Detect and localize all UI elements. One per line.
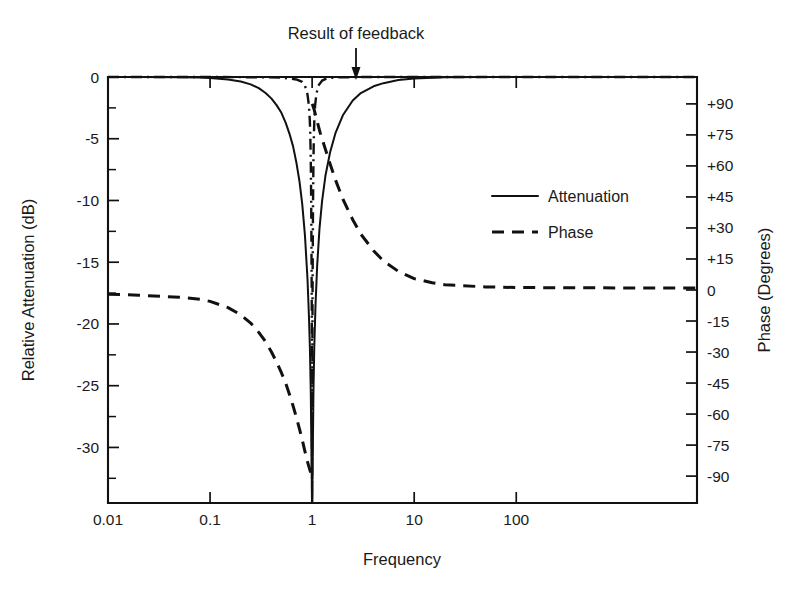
plot-frame [108,77,697,503]
left-tick-label: -25 [77,377,99,394]
bottom-tick-label: 100 [503,511,529,528]
right-tick-label: -60 [707,406,730,423]
bottom-tick-label: 1 [308,511,317,528]
right-tick-label: +30 [707,219,734,236]
bottom-tick-label: 10 [406,511,424,528]
left-tick-label: -10 [77,192,100,209]
left-tick-label: 0 [90,69,99,86]
y2-axis-title: Phase (Degrees) [755,228,773,353]
bottom-axis-tick-labels: 0.010.1110100 [93,511,530,528]
y-axis-title: Relative Attenuation (dB) [19,199,37,382]
right-tick-label: +15 [707,250,733,267]
curve-phase [108,294,312,476]
right-axis-ticks [686,104,697,476]
annotation-label: Result of feedback [288,24,425,42]
curve-result-of-feedback [108,77,697,503]
right-tick-label: +90 [707,95,734,112]
legend-label-attenuation: Attenuation [548,188,629,205]
notch-filter-figure: 0-5-10-15-20-25-30 +90+75+60+45+30+150-1… [0,0,801,589]
bottom-tick-label: 0.1 [199,511,221,528]
right-tick-label: +60 [707,157,734,174]
left-tick-label: -15 [77,254,99,271]
left-axis-tick-labels: 0-5-10-15-20-25-30 [77,69,100,456]
right-tick-label: -15 [707,313,729,330]
right-tick-label: 0 [707,282,716,299]
right-tick-label: -75 [707,437,729,454]
plot-svg: 0-5-10-15-20-25-30 +90+75+60+45+30+150-1… [0,0,801,589]
right-tick-label: -30 [707,344,730,361]
left-tick-label: -5 [85,130,99,147]
data-curves [108,77,697,503]
legend-label-phase: Phase [548,224,593,241]
right-axis-tick-labels: +90+75+60+45+30+150-15-30-45-60-75-90 [707,95,734,484]
left-tick-label: -20 [77,315,100,332]
bottom-tick-label: 0.01 [93,511,123,528]
curve-attenuation [108,77,697,503]
legend: Attenuation Phase [492,188,629,241]
feedback-annotation: Result of feedback [288,24,425,80]
x-axis-title: Frequency [363,550,442,568]
left-axis-ticks [108,77,119,478]
right-tick-label: +75 [707,126,733,143]
right-tick-label: -45 [707,375,729,392]
right-tick-label: +45 [707,188,733,205]
left-tick-label: -30 [77,439,100,456]
right-tick-label: -90 [707,468,730,485]
